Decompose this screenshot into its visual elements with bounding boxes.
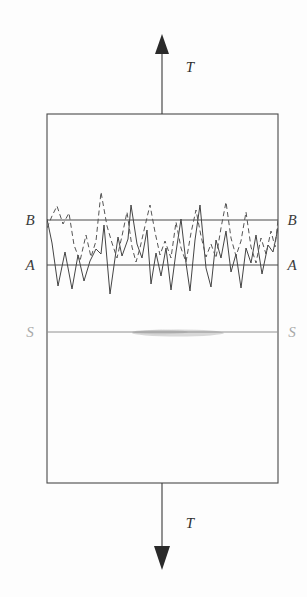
level-label-s-right: S	[288, 324, 296, 340]
zigzag-trace-group	[47, 192, 278, 294]
tension-arrow-down-head	[154, 546, 170, 570]
level-label-a-left: A	[24, 257, 35, 273]
figure-svg: T T B A S B A S	[0, 0, 307, 597]
load-label-bottom: T	[186, 515, 196, 531]
level-label-b-right: B	[287, 212, 296, 228]
tension-arrow-up-head	[155, 34, 169, 54]
load-label-top: T	[186, 59, 196, 75]
dashed-zigzag-trace	[47, 192, 278, 263]
level-label-s-left: S	[26, 324, 34, 340]
figure-root: T T B A S B A S	[0, 0, 307, 597]
level-label-a-right: A	[286, 257, 297, 273]
specimen-rectangle	[47, 114, 278, 483]
level-label-b-left: B	[25, 212, 34, 228]
solid-zigzag-trace	[47, 205, 278, 294]
